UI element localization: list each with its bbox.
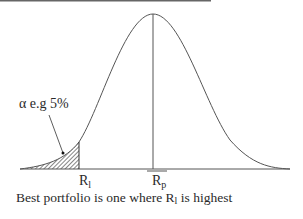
rp-subscript: p <box>161 179 166 190</box>
rp-label-text: R <box>152 173 161 188</box>
caption: Best portfolio is one where Rl is highes… <box>16 190 232 206</box>
caption-subscript: l <box>175 195 178 206</box>
rl-axis-label: Rl <box>79 173 91 189</box>
alpha-pointer <box>49 115 63 153</box>
rp-axis-label: Rp <box>152 173 166 189</box>
caption-pre: Best portfolio is one where R <box>16 190 175 205</box>
alpha-pointer-dot <box>62 152 65 155</box>
rl-subscript: l <box>88 179 91 190</box>
alpha-tail-area <box>20 142 79 169</box>
alpha-label: α e.g 5% <box>19 96 69 112</box>
rl-label-text: R <box>79 173 88 188</box>
caption-post: is highest <box>177 190 232 205</box>
